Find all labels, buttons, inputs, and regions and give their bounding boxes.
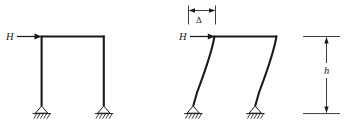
support-hatching — [34, 114, 50, 118]
displacement-label: Δ — [196, 15, 202, 25]
load-arrow-left — [17, 33, 42, 39]
height-arrow-head-top — [324, 37, 328, 44]
delta-arrow-head-right — [209, 8, 215, 13]
load-label-left: H — [5, 31, 15, 42]
right-column-deformed — [255, 36, 276, 106]
support-triangle — [98, 106, 110, 113]
load-label-right: H — [178, 31, 188, 42]
delta-arrow-head-left — [189, 8, 195, 13]
height-dimension-group — [303, 37, 340, 114]
pinned-support-right-undeformed — [95, 106, 113, 118]
load-arrow-head-left — [35, 33, 42, 39]
support-triangle — [249, 106, 261, 113]
diagram-canvas: H H Δ h — [0, 0, 344, 130]
portal-frame-figure: H H Δ h — [0, 0, 344, 130]
support-hatching — [96, 114, 112, 118]
undeformed-frame-group — [17, 33, 113, 118]
delta-dimension-group — [189, 6, 216, 25]
support-hatching — [248, 114, 264, 118]
pinned-support-right-deformed — [246, 106, 264, 118]
support-hatching — [186, 114, 202, 118]
left-column-deformed — [193, 36, 214, 106]
support-triangle — [187, 106, 199, 113]
height-arrow-head-bottom — [324, 107, 328, 114]
support-triangle — [35, 106, 47, 113]
height-label: h — [324, 65, 329, 76]
pinned-support-left-undeformed — [33, 106, 51, 118]
pinned-support-left-deformed — [184, 106, 202, 118]
load-arrow-right — [190, 33, 215, 39]
